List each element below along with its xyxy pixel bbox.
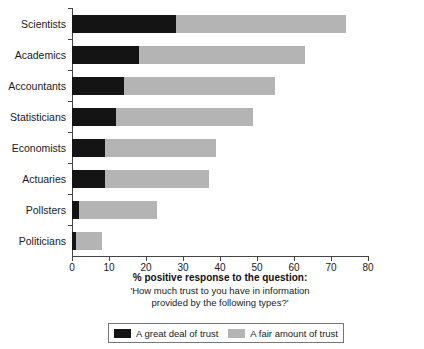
x-axis-tick bbox=[294, 257, 295, 261]
axis-caption: % positive response to the question: 'Ho… bbox=[50, 272, 390, 310]
bar-chart: ScientistsAcademicsAccountantsStatistici… bbox=[0, 0, 424, 349]
y-axis-tick bbox=[68, 70, 72, 71]
plot-area bbox=[72, 8, 368, 256]
y-axis-tick bbox=[68, 39, 72, 40]
bar-segment-fair-amount bbox=[124, 77, 276, 95]
bar-row bbox=[72, 77, 368, 95]
y-axis-tick bbox=[68, 194, 72, 195]
bar-row bbox=[72, 232, 368, 250]
x-axis-tick bbox=[183, 257, 184, 261]
bar-row bbox=[72, 201, 368, 219]
x-axis-tick bbox=[109, 257, 110, 261]
category-label: Academics bbox=[0, 49, 66, 61]
chart-legend: A great deal of trustA fair amount of tr… bbox=[108, 323, 344, 343]
category-label: Statisticians bbox=[0, 111, 66, 123]
bar-segment-great-deal bbox=[72, 139, 105, 157]
x-axis-tick bbox=[220, 257, 221, 261]
category-label: Actuaries bbox=[0, 173, 66, 185]
bar-segment-great-deal bbox=[72, 108, 116, 126]
y-axis-tick bbox=[68, 225, 72, 226]
category-label: Accountants bbox=[0, 80, 66, 92]
bar-row bbox=[72, 15, 368, 33]
legend-item: A fair amount of trust bbox=[228, 328, 338, 339]
bar-segment-fair-amount bbox=[76, 232, 102, 250]
category-label: Economists bbox=[0, 142, 66, 154]
bar-segment-great-deal bbox=[72, 46, 139, 64]
bar-segment-fair-amount bbox=[116, 108, 253, 126]
category-label: Politicians bbox=[0, 235, 66, 247]
legend-label: A fair amount of trust bbox=[250, 328, 338, 339]
legend-label: A great deal of trust bbox=[136, 328, 218, 339]
legend-swatch bbox=[228, 329, 245, 338]
caption-line-1: % positive response to the question: bbox=[50, 272, 390, 285]
y-axis-tick bbox=[68, 101, 72, 102]
x-axis-tick bbox=[331, 257, 332, 261]
x-axis-tick bbox=[146, 257, 147, 261]
category-label: Scientists bbox=[0, 18, 66, 30]
bar-segment-great-deal bbox=[72, 77, 124, 95]
bar-row bbox=[72, 46, 368, 64]
bar-segment-great-deal bbox=[72, 201, 79, 219]
bar-row bbox=[72, 170, 368, 188]
legend-item: A great deal of trust bbox=[114, 328, 218, 339]
bar-segment-fair-amount bbox=[105, 139, 216, 157]
bar-segment-fair-amount bbox=[176, 15, 346, 33]
y-axis-tick bbox=[68, 163, 72, 164]
bar-row bbox=[72, 108, 368, 126]
category-label: Pollsters bbox=[0, 204, 66, 216]
bar-segment-fair-amount bbox=[105, 170, 209, 188]
y-axis-tick bbox=[68, 132, 72, 133]
caption-line-2: 'How much trust to you have in informati… bbox=[50, 285, 390, 298]
caption-line-3: provided by the following types?' bbox=[50, 297, 390, 310]
bar-segment-great-deal bbox=[72, 170, 105, 188]
legend-swatch bbox=[114, 329, 131, 338]
bar-segment-fair-amount bbox=[139, 46, 306, 64]
x-axis-tick bbox=[368, 257, 369, 261]
bar-segment-great-deal bbox=[72, 15, 176, 33]
x-axis-tick bbox=[72, 257, 73, 261]
bar-row bbox=[72, 139, 368, 157]
bar-segment-fair-amount bbox=[79, 201, 157, 219]
x-axis-tick bbox=[257, 257, 258, 261]
y-axis-tick bbox=[68, 8, 72, 9]
